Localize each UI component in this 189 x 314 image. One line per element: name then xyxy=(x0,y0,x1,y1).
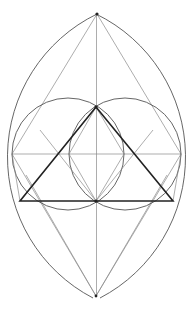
top-apex-point xyxy=(95,12,98,15)
bottom-apex-point xyxy=(95,295,98,298)
center-bottom-point xyxy=(94,199,97,202)
line-bottom-to-upper-right xyxy=(96,175,167,296)
triangle-apex-point xyxy=(94,105,97,108)
line-top-right xyxy=(97,14,181,154)
outer-vesica-left-arc xyxy=(7,14,97,298)
geometric-diagram xyxy=(0,0,189,314)
outer-vesica-right-arc xyxy=(96,14,186,298)
